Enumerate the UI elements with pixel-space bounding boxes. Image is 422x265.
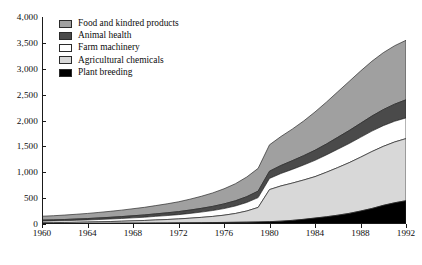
chart-figure: 05001,0001,5002,0002,5003,0003,5004,000 …	[0, 0, 422, 265]
x-axis-tick	[224, 224, 225, 228]
y-axis-tick-label: 2,000	[17, 116, 38, 126]
y-axis-tick	[42, 121, 46, 122]
x-axis-tick-label: 1960	[33, 228, 51, 238]
x-axis-tick	[361, 224, 362, 228]
legend-label: Animal health	[78, 31, 131, 40]
x-axis-tick-label: 1984	[306, 228, 324, 238]
legend-item: Animal health	[59, 30, 179, 42]
y-axis-labels: 05001,0001,5002,0002,5003,0003,5004,000	[0, 0, 38, 265]
y-axis-tick	[42, 172, 46, 173]
x-axis-tick-label: 1968	[124, 228, 142, 238]
x-axis-tick-label: 1988	[351, 228, 369, 238]
legend-label: Agricultural chemicals	[78, 56, 164, 65]
legend-item: Plant breeding	[59, 67, 179, 79]
y-axis-tick	[42, 43, 46, 44]
chart-legend: Food and kindred products Animal health …	[59, 18, 179, 79]
y-axis-tick-label: 3,500	[17, 38, 38, 48]
y-axis-tick	[42, 95, 46, 96]
legend-item: Farm machinery	[59, 42, 179, 54]
y-axis-tick-label: 3,000	[17, 64, 38, 74]
legend-item: Agricultural chemicals	[59, 55, 179, 67]
x-axis-tick	[42, 224, 43, 228]
x-axis-tick-label: 1972	[169, 228, 187, 238]
legend-item: Food and kindred products	[59, 18, 179, 30]
x-axis-tick	[270, 224, 271, 228]
x-axis-tick	[179, 224, 180, 228]
x-axis-tick	[88, 224, 89, 228]
x-axis-tick	[133, 224, 134, 228]
y-axis-tick-label: 1,500	[17, 141, 38, 151]
y-axis-tick	[42, 69, 46, 70]
y-axis-tick	[42, 146, 46, 147]
legend-swatch-animal-health	[59, 32, 72, 40]
x-axis-tick-label: 1992	[397, 228, 415, 238]
x-axis-tick	[315, 224, 316, 228]
x-axis-tick	[406, 224, 407, 228]
legend-swatch-agricultural-chemicals	[59, 56, 72, 64]
legend-swatch-farm-machinery	[59, 44, 72, 52]
x-axis-tick-label: 1976	[215, 228, 233, 238]
x-axis-tick-label: 1980	[260, 228, 278, 238]
legend-label: Plant breeding	[78, 68, 132, 77]
y-axis-tick-label: 500	[24, 193, 38, 203]
y-axis-tick-label: 1,000	[17, 167, 38, 177]
y-axis-tick-label: 4,000	[17, 12, 38, 22]
legend-label: Food and kindred products	[78, 19, 179, 28]
legend-swatch-food-and-kindred-products	[59, 20, 72, 28]
x-axis-tick-label: 1964	[78, 228, 96, 238]
y-axis-tick-label: 2,500	[17, 90, 38, 100]
legend-swatch-plant-breeding	[59, 69, 72, 77]
y-axis-tick	[42, 198, 46, 199]
legend-label: Farm machinery	[78, 43, 140, 52]
